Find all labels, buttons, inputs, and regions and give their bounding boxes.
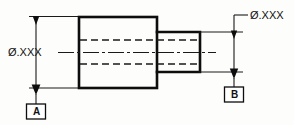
left-top-arrowhead-icon [33, 16, 40, 25]
right-top-arrowhead-icon [231, 31, 237, 40]
left-dimension-group: Ø.XXX A [8, 16, 80, 119]
left-dimension-label: Ø.XXX [8, 46, 42, 58]
right-bottom-arrowhead-icon [230, 69, 238, 80]
datum-symbol-a-letter: A [33, 106, 40, 117]
right-dimension-label: Ø.XXX [250, 9, 284, 21]
left-bottom-arrowhead-icon [32, 85, 41, 96]
part-geometry-group [58, 17, 216, 88]
right-dimension-group: Ø.XXX B [198, 9, 284, 102]
engineering-drawing-canvas: Ø.XXX A [0, 0, 294, 125]
datum-symbol-b-letter: B [231, 89, 238, 100]
